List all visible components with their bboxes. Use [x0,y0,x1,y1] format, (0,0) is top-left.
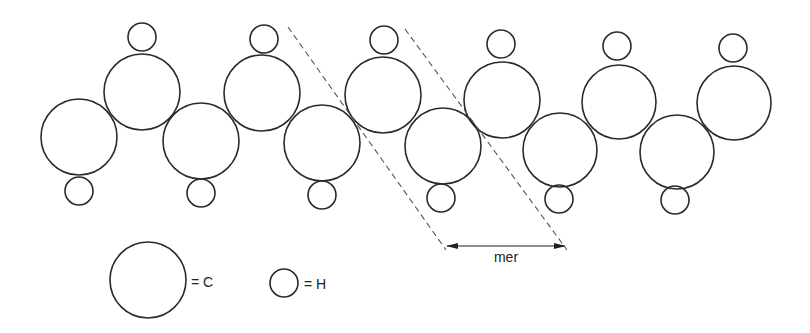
hydrogen-atom [308,181,336,209]
carbon-atom [41,99,117,175]
mer-dashed-line [405,29,567,250]
hydrogen-atom [65,177,93,205]
legend-carbon-circle [110,242,186,318]
polyethylene-diagram: mer = C = H [0,0,810,333]
legend-carbon-label: = C [191,274,213,290]
carbon-atom [523,113,597,187]
carbon-atom [163,103,239,179]
carbon-atom [104,54,180,130]
hydrogen-atom [545,185,573,213]
carbon-atom [345,57,421,133]
hydrogen-atom [370,26,398,54]
hydrogen-atom [719,34,747,62]
hydrogen-atoms [65,23,747,214]
carbon-atom [464,62,540,138]
carbon-atoms [41,54,771,189]
hydrogen-atom [487,30,515,58]
mer-label: mer [494,249,518,265]
hydrogen-atom [187,179,215,207]
carbon-atom [582,65,656,139]
legend-hydrogen-circle [270,269,298,297]
hydrogen-atom [250,25,278,53]
hydrogen-atom [128,23,156,51]
legend: = C = H [110,242,326,318]
carbon-atom [284,105,360,181]
carbon-atom [697,66,771,140]
hydrogen-atom [427,184,455,212]
hydrogen-atom [603,32,631,60]
carbon-atom [224,55,300,131]
legend-hydrogen-label: = H [304,276,326,292]
carbon-atom [640,115,714,189]
hydrogen-atom [661,186,689,214]
